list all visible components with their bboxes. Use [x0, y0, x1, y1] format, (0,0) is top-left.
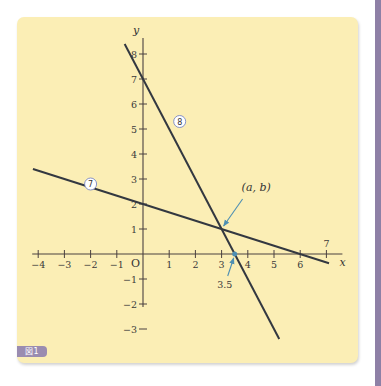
x-tick-label: 3: [219, 259, 225, 270]
intersection-arrow: [224, 199, 243, 226]
x-intercept-dot: [232, 252, 237, 257]
x-tick-label: −4: [31, 259, 45, 270]
x-intercept-label: 3.5: [217, 279, 232, 290]
y-tick-label: 1: [131, 224, 137, 235]
y-tick-label: 7: [131, 74, 137, 85]
x-tick-label: 5: [271, 259, 277, 270]
x-tick-label: −2: [84, 259, 98, 270]
y-tick-label: 4: [131, 149, 137, 160]
y-tick-label: −1: [123, 274, 137, 285]
y-tick-label: 3: [131, 174, 137, 185]
series-label: 7: [88, 180, 93, 189]
figure-number-badge: 図1: [17, 346, 47, 357]
y-axis-label: y: [132, 24, 140, 37]
x-tick-label: 1: [166, 259, 172, 270]
x-tick-label: 6: [297, 259, 303, 270]
x-tick-label: 7: [323, 238, 329, 249]
x-tick-label: 4: [245, 259, 251, 270]
intersection-label: (a, b): [242, 181, 271, 194]
origin-label: O: [131, 257, 140, 270]
x-intercept-arrow: [228, 258, 234, 276]
y-tick-label: −3: [123, 324, 137, 335]
graph-plot: xyO −4−3−2−11234567−3−2−112345678 78 (a,…: [0, 0, 381, 386]
x-tick-label: −3: [57, 259, 71, 270]
x-tick-label: 2: [192, 259, 198, 270]
y-tick-label: 5: [131, 124, 137, 135]
x-axis-label: x: [339, 256, 346, 269]
x-tick-label: −1: [110, 259, 124, 270]
series-label: 8: [177, 118, 182, 127]
y-tick-label: 6: [131, 99, 137, 110]
y-tick-label: −2: [123, 299, 137, 310]
series-line-7: [33, 169, 329, 263]
